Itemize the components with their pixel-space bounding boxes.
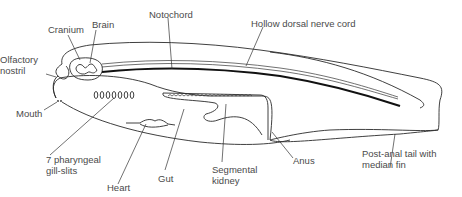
label-brain: Brain	[92, 19, 114, 30]
label-segmental-kidney-line1: Segmental	[212, 164, 257, 175]
cranium-capsule	[70, 58, 103, 80]
label-cranium: Cranium	[48, 24, 84, 35]
label-olfactory-nostril-line2: nostril	[0, 65, 25, 76]
lancelet-diagram: Cranium Brain Notochord Hollow dorsal ne…	[0, 0, 462, 197]
label-anus: Anus	[293, 155, 315, 166]
gill-slits	[94, 92, 134, 99]
ventral-outline	[53, 76, 438, 142]
dorsal-fin-line	[270, 52, 424, 108]
label-tail-line2: median fin	[362, 159, 406, 170]
dorsal-outline	[62, 42, 442, 140]
brain-shape	[76, 64, 97, 74]
belly-outline	[62, 102, 290, 144]
label-gill-slits-line2: gill-slits	[46, 165, 77, 176]
notochord-line	[102, 69, 400, 106]
label-tail-line1: Post-anal tail with	[362, 148, 436, 159]
label-mouth: Mouth	[16, 108, 42, 119]
label-olfactory-nostril-line1: Olfactory	[0, 54, 38, 65]
mouth-dot	[60, 100, 62, 102]
gut-tube	[163, 93, 268, 140]
label-segmental-kidney-line2: kidney	[212, 175, 239, 186]
heart-vessel	[126, 120, 175, 128]
label-gill-slits-line1: 7 pharyngeal	[46, 154, 101, 165]
label-gut: Gut	[158, 173, 173, 184]
mouth-dot	[57, 100, 59, 102]
label-notochord: Notochord	[149, 9, 193, 20]
label-heart: Heart	[107, 182, 130, 193]
label-hollow-dorsal-nerve-cord: Hollow dorsal nerve cord	[251, 18, 356, 29]
